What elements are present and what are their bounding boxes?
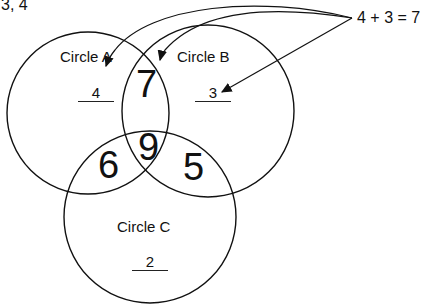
equation-text: 4 + 3 = 7 bbox=[357, 9, 420, 27]
circle-a-label: Circle A bbox=[60, 48, 112, 65]
venn-diagram-shapes bbox=[0, 0, 437, 307]
intersection-ab-value: 7 bbox=[136, 63, 157, 106]
intersection-ac-value: 6 bbox=[98, 144, 119, 187]
intersection-bc-value: 5 bbox=[183, 146, 204, 189]
circle-b-answer: 3 bbox=[195, 84, 231, 102]
circle-a-answer: 4 bbox=[78, 84, 114, 102]
arrow-to-circle-b bbox=[222, 18, 352, 92]
circle-c-label: Circle C bbox=[117, 218, 170, 235]
top-left-text: 3, 4 bbox=[1, 0, 28, 14]
circle-b-label: Circle B bbox=[177, 48, 230, 65]
intersection-abc-value: 9 bbox=[138, 126, 159, 169]
circle-c-answer: 2 bbox=[132, 253, 168, 271]
